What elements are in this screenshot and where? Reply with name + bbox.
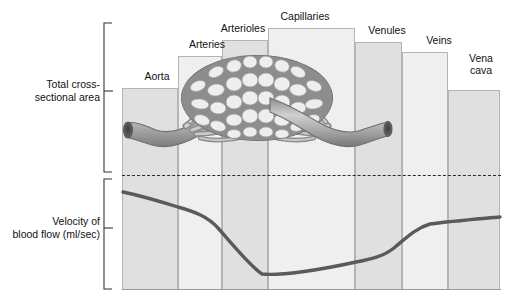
- column-label-veins: Veins: [410, 34, 468, 46]
- column-arterioles: [222, 22, 268, 290]
- column-arteries: [178, 22, 222, 290]
- bar-arterioles: [222, 40, 268, 290]
- column-label-arteries: Arteries: [178, 38, 236, 50]
- column-capillaries: [268, 22, 355, 290]
- figure-root: Total cross- sectional area Velocity of …: [0, 0, 515, 307]
- plot-area: [122, 22, 500, 290]
- bar-aorta: [122, 88, 178, 290]
- column-label-venules: Venules: [358, 24, 416, 36]
- bar-vena-cava: [448, 90, 500, 290]
- column-venules: [355, 22, 402, 290]
- column-label-arterioles: Arterioles: [214, 22, 272, 34]
- column-label-vena-cava: Vena cava: [452, 52, 510, 76]
- axis-label-velocity-of-blood-flow: Velocity of blood flow (ml/sec): [2, 215, 100, 241]
- bar-veins: [402, 52, 448, 290]
- bar-arteries: [178, 56, 222, 290]
- bar-venules: [355, 42, 402, 290]
- column-aorta: [122, 22, 178, 290]
- baseline-axis: [122, 289, 501, 290]
- column-label-aorta: Aorta: [128, 70, 186, 82]
- dashed-divider-line: [122, 175, 501, 176]
- axis-label-total-cross-sectional-area: Total cross- sectional area: [8, 78, 100, 104]
- bar-capillaries: [268, 28, 355, 290]
- column-label-capillaries: Capillaries: [276, 10, 334, 22]
- column-veins: [402, 22, 448, 290]
